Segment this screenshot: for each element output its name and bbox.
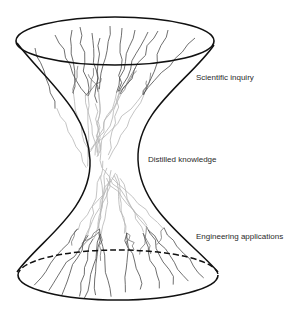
branch-bottom: [100, 229, 112, 297]
branch-bottom: [147, 227, 174, 285]
label-scientific-inquiry: Scientific inquiry: [196, 74, 254, 82]
branch-bottom: [84, 234, 100, 299]
branch-bottom: [143, 233, 159, 288]
top-ellipse: [16, 17, 214, 65]
branch-bottom: [80, 239, 94, 297]
bottom-ellipse-front: [18, 275, 218, 300]
branch-top: [119, 32, 148, 92]
branch-top: [116, 30, 135, 93]
branch-top: [35, 48, 55, 109]
branches-bottom: [34, 161, 204, 299]
branch-bottom: [62, 235, 87, 295]
branch-top: [57, 108, 87, 168]
branch-bottom: [34, 229, 77, 285]
bottom-ellipse-back-dashed: [18, 250, 218, 275]
branch-bottom: [126, 233, 142, 290]
branch-top: [95, 38, 100, 103]
branch-top: [143, 38, 195, 95]
branches-top: [35, 26, 195, 168]
branch-bottom: [72, 229, 78, 246]
funnel-left-outline: [17, 43, 90, 272]
label-distilled-knowledge: Distilled knowledge: [148, 156, 216, 164]
branch-top: [80, 27, 89, 96]
branch-top: [95, 92, 117, 155]
label-engineering-applications: Engineering applications: [196, 233, 283, 241]
branch-top: [118, 28, 122, 92]
